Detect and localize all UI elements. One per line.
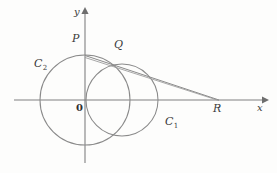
point-label-q: Q (114, 39, 123, 50)
figure-canvas (0, 0, 277, 173)
vertical-axis (81, 7, 88, 163)
geometry-figure: P Q R C2 C1 0 x y (0, 0, 277, 173)
secant-line-p-r (85, 58, 219, 101)
x-axis-arrowhead (262, 96, 269, 103)
x-axis-label: x (257, 103, 263, 113)
circle-label-c1-subscript: 1 (174, 122, 178, 130)
origin-label: 0 (76, 103, 83, 113)
circle-label-c2-subscript: 2 (43, 64, 47, 72)
y-axis-arrowhead (81, 7, 88, 14)
circle-label-c2-text: C (34, 57, 42, 70)
point-label-r: R (213, 103, 221, 114)
circle-label-c1-text: C (165, 115, 173, 128)
circle-label-c1: C1 (165, 116, 178, 127)
y-axis-label: y (74, 7, 80, 17)
horizontal-axis (14, 96, 269, 103)
circle-label-c2: C2 (34, 58, 47, 69)
tangent-line-p-r (85, 56, 219, 101)
point-label-p: P (72, 33, 79, 44)
